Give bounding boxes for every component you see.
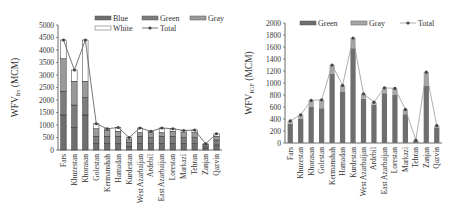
x-tick-label: Zanjan — [201, 154, 210, 175]
bar-segment-gray — [170, 131, 175, 136]
legend-label: Total — [160, 24, 177, 33]
bar-segment-green — [434, 127, 439, 143]
bar-east-azarbaijan — [159, 128, 164, 150]
legend-label: Green — [160, 14, 180, 23]
legend-swatch-icon — [95, 16, 111, 20]
bar-lorestan — [170, 129, 175, 150]
total-marker — [204, 142, 207, 145]
bar-segment-blue — [192, 144, 197, 150]
bar-kermanshah — [329, 65, 334, 143]
bar-segment-blue — [126, 146, 131, 150]
total-marker — [383, 86, 386, 89]
bar-segment-gray — [61, 59, 66, 92]
bar-ardebil — [371, 102, 376, 143]
total-marker — [372, 101, 375, 104]
bar-segment-green — [371, 105, 376, 143]
x-tick-label: Ardebil — [146, 154, 155, 177]
bar-west-azarbaijan — [137, 128, 142, 150]
total-marker — [320, 98, 323, 101]
total-marker — [404, 108, 407, 111]
bar-hamadan — [115, 128, 120, 151]
bar-segment-green — [203, 146, 208, 148]
bar-segment-green — [319, 108, 324, 143]
bar-segment-green — [192, 138, 197, 144]
bar-segment-blue — [115, 144, 120, 150]
legend-marker-icon — [148, 26, 151, 29]
x-tick-label: Zanjan — [422, 147, 431, 168]
bar-fars — [288, 121, 293, 143]
y-axis-label: WFVIGF (MCM) — [244, 51, 255, 115]
legend-item-total: Total — [142, 24, 177, 33]
total-marker — [127, 136, 130, 139]
legend-label: White — [113, 24, 133, 33]
x-tick-label: Kermanshah — [103, 154, 112, 192]
total-marker — [149, 130, 152, 133]
bar-segment-blue — [203, 148, 208, 150]
bar-segment-green — [382, 93, 387, 143]
y-tick-label: 4500 — [39, 33, 54, 42]
bar-segment-gray — [192, 133, 197, 138]
bar-segment-gray — [83, 81, 88, 97]
legend-item-total: Total — [400, 19, 435, 28]
x-tick-label: Qazvin — [212, 154, 221, 176]
y-tick-label: 2500 — [39, 83, 54, 92]
total-marker — [362, 92, 365, 95]
y-tick-label: 600 — [270, 103, 282, 112]
bar-segment-green — [72, 105, 77, 128]
legend-item-gray: Gray — [351, 19, 385, 28]
bar-segment-blue — [83, 115, 88, 150]
bar-segment-green — [298, 119, 303, 143]
x-tick-label: Lorestan — [390, 147, 399, 173]
total-marker — [414, 138, 417, 141]
bar-segment-blue — [61, 115, 66, 150]
total-marker — [289, 119, 292, 122]
bar-segment-blue — [94, 144, 99, 150]
bar-khuzestan — [298, 115, 303, 143]
y-tick-label: 3000 — [39, 71, 54, 80]
x-tick-label: Ardebil — [369, 147, 378, 170]
total-marker — [84, 38, 87, 41]
bar-segment-green — [288, 124, 293, 143]
y-tick-label: 2000 — [266, 19, 281, 28]
bar-kermanshah — [104, 129, 109, 150]
bar-segment-blue — [170, 144, 175, 150]
total-marker — [215, 132, 218, 135]
bar-segment-green — [309, 107, 314, 143]
bar-kurdestan — [126, 138, 131, 151]
bar-segment-gray — [94, 129, 99, 137]
total-marker — [435, 124, 438, 127]
bar-segment-green — [329, 74, 334, 143]
legend-label: Green — [318, 19, 338, 28]
legend-swatch-icon — [142, 16, 158, 20]
legend-marker-icon — [406, 21, 409, 24]
x-tick-label: Golestan — [317, 147, 326, 174]
bar-segment-green — [340, 92, 345, 143]
legend-label: Total — [418, 19, 435, 28]
bar-qazvin — [434, 126, 439, 143]
y-tick-label: 2000 — [39, 96, 54, 105]
total-marker — [117, 126, 120, 129]
bar-fars — [61, 40, 66, 150]
bar-segment-green — [170, 136, 175, 144]
bar-segment-gray — [181, 133, 186, 138]
bar-segment-green — [392, 95, 397, 143]
bar-ardebil — [148, 131, 153, 150]
chart-wfv-irr: 0500100015002000250030003500400045005000… — [0, 0, 230, 217]
bar-segment-green — [137, 136, 142, 144]
legend-swatch-icon — [300, 21, 316, 25]
x-tick-label: Khuzestan — [296, 147, 305, 179]
y-tick-label: 500 — [43, 133, 55, 142]
x-tick-label: Lorestan — [168, 154, 177, 180]
x-tick-label: West Azarbaijan — [136, 154, 145, 203]
x-tick-label: Markazi — [179, 154, 188, 179]
bar-lorestan — [392, 88, 397, 143]
x-tick-label: Kermanshah — [328, 147, 337, 185]
x-tick-label: Kurdestan — [125, 154, 134, 185]
x-tick-label: West Azarbaijan — [359, 147, 368, 196]
legend-label: Gray — [369, 19, 385, 28]
bar-segment-green — [159, 136, 164, 144]
x-tick-label: Markazi — [401, 147, 410, 172]
x-tick-label: Fars — [286, 147, 295, 160]
bar-segment-gray — [137, 133, 142, 137]
total-marker — [341, 84, 344, 87]
